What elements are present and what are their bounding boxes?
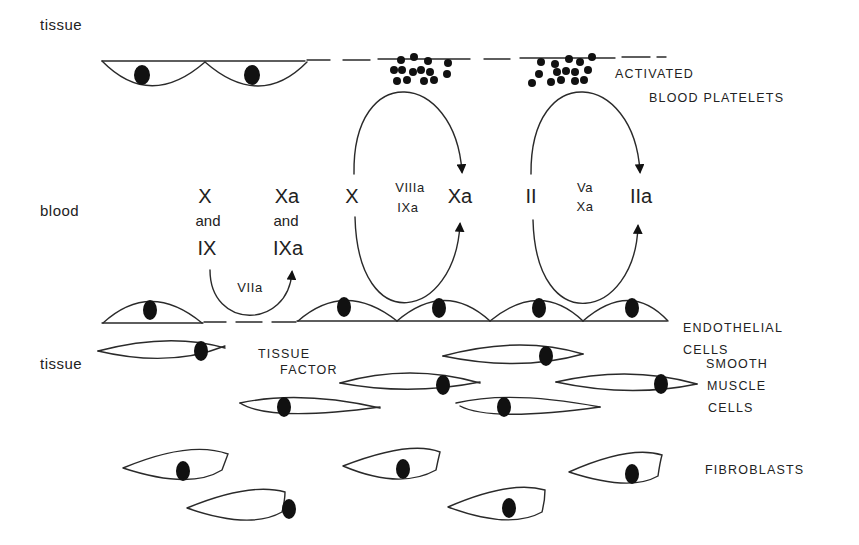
factor-x: X [345,185,358,207]
factor-viiia: VIIIa [395,180,425,195]
factor-ixa: IXa [397,200,418,215]
factor-xa: Xa [576,199,593,214]
loop-lower-arrow [355,217,460,303]
fibroblasts [123,448,662,520]
and-label: and [273,212,298,229]
smooth-muscle-cells [98,341,697,417]
extrinsic-pathway: X and IX Xa and IXa VIIa [195,185,303,315]
fibroblast [569,452,662,484]
smooth-muscle-cell [98,341,225,361]
region-label-tissue-top: tissue [40,16,82,33]
label-tissue-factor-2: FACTOR [280,363,338,377]
nucleus [625,298,639,318]
nucleus [532,298,546,318]
endothelial-cell [102,61,205,86]
region-label-tissue-bottom: tissue [40,355,82,372]
fibroblast [187,489,296,520]
factor-xa: Xa [275,185,300,207]
label-blood-platelets: BLOOD PLATELETS [649,91,784,105]
nucleus [143,300,157,320]
smooth-muscle-cell [340,373,480,395]
label-tissue-factor-1: TISSUE [258,347,310,361]
smooth-muscle-cell [443,345,583,366]
factor-ix: IX [198,237,217,259]
platelet-cluster-1 [390,53,452,85]
fibroblast [123,449,228,481]
fibroblast [448,487,545,520]
smooth-muscle-cell [240,397,380,417]
nucleus [134,65,150,85]
loop-upper-arrow [531,92,640,174]
nucleus [337,297,351,317]
and-label: and [195,212,220,229]
nucleus [244,65,260,85]
factor-xa: Xa [448,185,473,207]
factor-va: Va [577,180,593,195]
fibroblast [343,448,440,479]
loop-upper-arrow [354,92,462,174]
tenase-loop: X VIIIa IXa Xa [345,92,473,303]
label-endothelial: ENDOTHELIAL [683,321,783,335]
label-activated: ACTIVATED [615,67,694,81]
factor-iia: IIa [630,185,653,207]
region-label-blood: blood [40,202,79,219]
label-smooth-cells: CELLS [708,401,754,415]
label-muscle: MUSCLE [707,379,766,393]
nucleus [432,298,446,318]
label-endothelial-cells: CELLS [683,343,729,357]
factor-ixa: IXa [273,237,304,259]
label-fibroblasts: FIBROBLASTS [705,463,804,477]
label-smooth: SMOOTH [706,357,768,371]
loop-lower-arrow [533,220,638,303]
smooth-muscle-cell [456,397,600,417]
factor-ii: II [525,185,536,207]
smooth-muscle-cell [556,374,697,394]
factor-x: X [198,185,211,207]
prothrombinase-loop: II Va Xa IIa [525,92,653,303]
coagulation-diagram: tissue blood tissue [0,0,859,545]
bottom-endothelium [102,297,668,323]
factor-viia: VIIa [237,280,263,295]
